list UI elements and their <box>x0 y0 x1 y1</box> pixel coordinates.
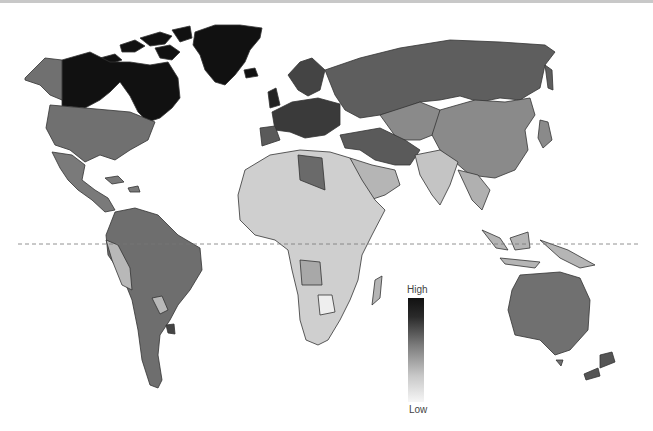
region-new-zealand <box>584 352 615 380</box>
region-tasmania <box>556 360 563 366</box>
region-uk <box>268 88 280 108</box>
legend-low-label: Low <box>409 404 427 415</box>
region-caribbean <box>105 176 140 192</box>
region-alaska <box>25 58 62 100</box>
region-scandinavia <box>288 58 325 96</box>
region-madagascar <box>372 276 382 305</box>
region-indonesia <box>482 230 595 268</box>
region-western-europe <box>272 98 340 138</box>
region-uruguay <box>166 324 175 334</box>
region-india <box>415 150 458 205</box>
region-australia <box>508 272 590 355</box>
world-map <box>0 0 653 431</box>
region-kamchatka <box>545 65 553 90</box>
region-angola <box>300 260 322 285</box>
region-japan <box>538 120 552 148</box>
region-arctic-islands <box>100 26 192 64</box>
region-iceland <box>244 68 258 78</box>
legend-high-label: High <box>407 284 428 295</box>
region-botswana <box>318 295 335 315</box>
legend-gradient-bar <box>408 298 424 402</box>
